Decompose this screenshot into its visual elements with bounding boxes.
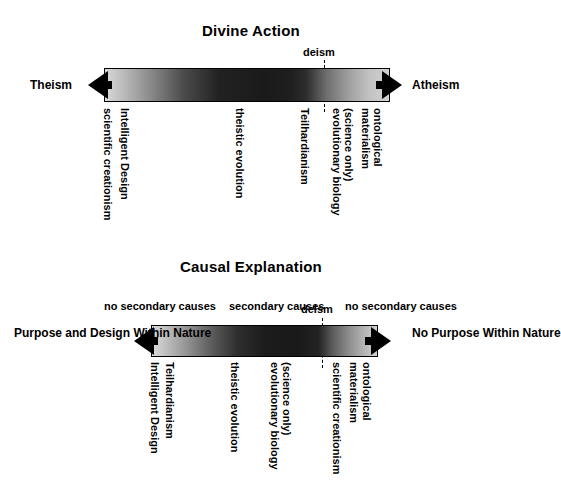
- divine-left-end-label: Theism: [30, 78, 72, 93]
- causal-caption-left-line1: no secondary: [104, 300, 176, 312]
- causal-caption-right: no secondary causes: [345, 300, 457, 313]
- divine-label-theistic-evolution: theistic evolution: [233, 108, 245, 198]
- divine-label-teilhardianism: Teilhardianism: [298, 108, 310, 185]
- causal-label-evolutionary-biology: evolutionary biology: [268, 362, 280, 470]
- divine-action-spectrum-bar: [104, 68, 390, 102]
- divine-right-end-label: Atheism: [412, 78, 459, 93]
- causal-caption-left: no secondary causes: [104, 300, 216, 313]
- divine-label-science-only: (science only): [342, 108, 354, 181]
- divine-left-arrow-tail: [104, 81, 112, 89]
- causal-label-teilhardianism: Teilhardianism: [163, 362, 175, 439]
- causal-left-end-label-line1: Purpose and Design: [14, 326, 130, 340]
- causal-label-science-only: (science only): [280, 362, 292, 435]
- causal-explanation-title: Causal Explanation: [0, 258, 502, 275]
- causal-right-arrow-tail: [365, 337, 375, 345]
- divine-deism-label: deism: [303, 46, 335, 58]
- divine-action-gradient: [105, 69, 389, 101]
- causal-caption-right-line1: no secondary: [345, 300, 417, 312]
- causal-label-materialism: materialism: [347, 362, 359, 423]
- causal-caption-right-line2: causes: [420, 300, 457, 312]
- causal-right-end-label-line1: No Purpose: [412, 326, 479, 340]
- causal-deism-label: deism: [301, 303, 333, 315]
- causal-left-end-label: Purpose and Design Within Nature: [14, 326, 211, 341]
- causal-left-end-label-line2: Within Nature: [133, 326, 211, 340]
- divine-label-intelligent-design: Intelligent Design: [118, 108, 130, 200]
- causal-label-theistic-evolution: theistic evolution: [228, 362, 240, 452]
- causal-label-ontological: ontological: [360, 362, 372, 421]
- divine-label-materialism: materialism: [359, 108, 371, 169]
- causal-right-end-label-line2: Within Nature: [483, 326, 561, 340]
- causal-caption-left-line2: causes: [179, 300, 216, 312]
- causal-label-intelligent-design: Intelligent Design: [148, 362, 160, 454]
- divine-right-arrow-tail: [376, 81, 386, 89]
- divine-label-evolutionary-biology: evolutionary biology: [330, 108, 342, 216]
- causal-right-end-label: No Purpose Within Nature: [412, 326, 561, 341]
- divine-label-ontological: ontological: [371, 108, 383, 167]
- causal-label-scientific-creationism: scientific creationism: [330, 362, 342, 475]
- divine-label-scientific-creationism: scientific creationism: [101, 108, 113, 221]
- divine-action-title: Divine Action: [0, 22, 502, 39]
- causal-caption-middle-line1: secondary: [229, 300, 284, 312]
